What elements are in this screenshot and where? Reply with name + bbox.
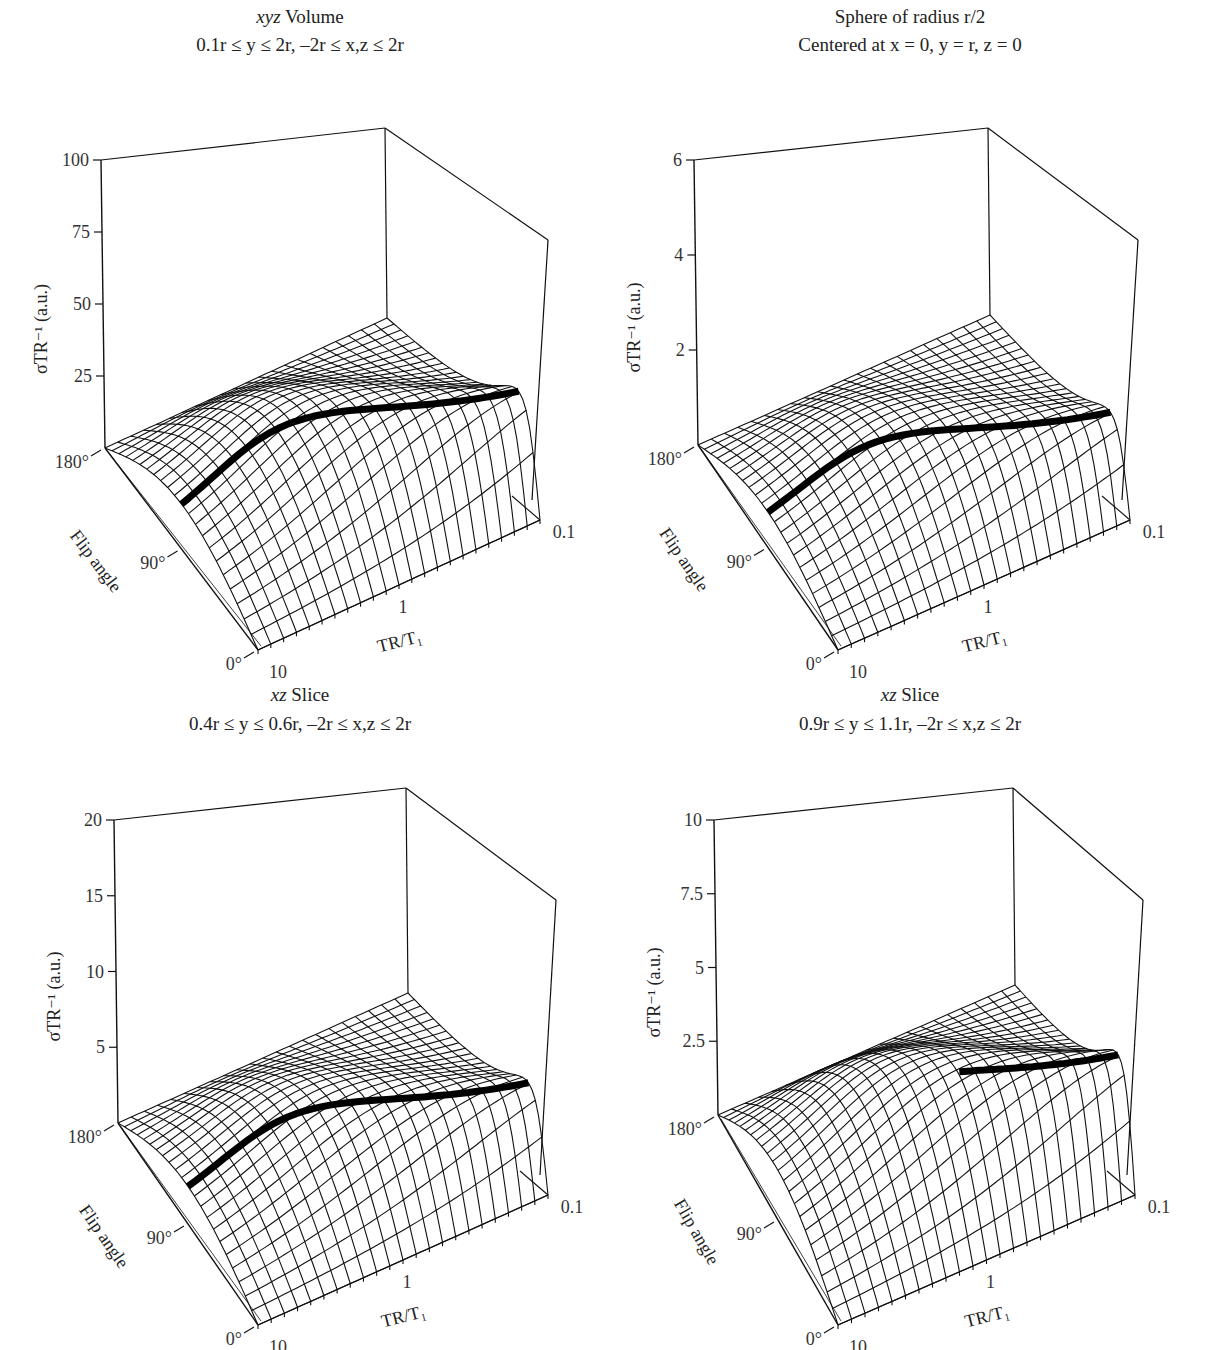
flip-tick-label: 90° — [140, 553, 165, 573]
surface-mesh — [118, 993, 548, 1329]
tr-tick-label: 0.1 — [1143, 522, 1166, 542]
surface-mesh — [698, 315, 1130, 654]
z-axis-label: σTR⁻¹ (a.u.) — [644, 947, 665, 1037]
z-tick-label: 15 — [85, 886, 103, 906]
flip-tick-label: 180° — [648, 449, 682, 469]
flip-tick-label: 180° — [668, 1119, 702, 1139]
surface-plot: 2015105σTR⁻¹ (a.u.)180°90°0°Flip angle10… — [0, 675, 600, 1350]
z-axis-label: σTR⁻¹ (a.u.) — [31, 284, 52, 374]
panel-xz-slice-low: xz Slice 0.4r ≤ y ≤ 0.6r, –2r ≤ x,z ≤ 2r… — [0, 675, 600, 1350]
z-tick-label: 100 — [62, 150, 89, 170]
surface-plot: 107.552.5σTR⁻¹ (a.u.)180°90°0°Flip angle… — [600, 675, 1200, 1350]
tr-axis-label: TR/T₁ — [960, 626, 1009, 656]
z-tick-label: 25 — [74, 366, 92, 386]
z-axis-label: σTR⁻¹ (a.u.) — [624, 282, 645, 372]
tr-tick-label: 1 — [986, 1272, 995, 1292]
flip-tick-label: 90° — [147, 1228, 172, 1248]
z-tick-label: 20 — [84, 810, 102, 830]
panel-xyz-volume: xyz Volume 0.1r ≤ y ≤ 2r, –2r ≤ x,z ≤ 2r… — [0, 0, 600, 675]
surface-mesh — [718, 985, 1135, 1329]
panel-sphere: Sphere of radius r/2 Centered at x = 0, … — [600, 0, 1200, 675]
tr-tick-label: 1 — [399, 597, 408, 617]
flip-tick-label: 90° — [727, 552, 752, 572]
flip-tick-label: 0° — [226, 1329, 242, 1349]
surface-plot: 642σTR⁻¹ (a.u.)180°90°0°Flip angle1010.1… — [600, 0, 1200, 675]
tr-tick-label: 0.1 — [561, 1197, 584, 1217]
tr-tick-label: 10 — [849, 1337, 867, 1350]
z-tick-label: 2 — [676, 340, 685, 360]
tr-tick-label: 1 — [984, 597, 993, 617]
flip-tick-label: 0° — [806, 1329, 822, 1349]
tr-tick-label: 1 — [403, 1272, 412, 1292]
panel-xz-slice-mid: xz Slice 0.9r ≤ y ≤ 1.1r, –2r ≤ x,z ≤ 2r… — [600, 675, 1200, 1350]
tr-axis-label: TR/T₁ — [379, 1301, 428, 1331]
z-axis-label: σTR⁻¹ (a.u.) — [44, 951, 65, 1041]
flip-axis-label: Flip angle — [66, 526, 126, 596]
z-tick-label: 5 — [96, 1037, 105, 1057]
surface-mesh — [105, 318, 540, 654]
tr-axis-label: TR/T₁ — [375, 626, 424, 656]
flip-axis-label: Flip angle — [670, 1195, 723, 1268]
z-tick-label: 7.5 — [681, 884, 704, 904]
flip-tick-label: 180° — [68, 1127, 102, 1147]
flip-tick-label: 180° — [55, 452, 89, 472]
z-tick-label: 6 — [673, 150, 682, 170]
z-tick-label: 75 — [72, 222, 90, 242]
surface-plot: 100755025σTR⁻¹ (a.u.)180°90°0°Flip angle… — [0, 0, 600, 675]
tr-axis-label: TR/T₁ — [963, 1301, 1012, 1331]
z-tick-label: 10 — [684, 810, 702, 830]
z-tick-label: 10 — [86, 962, 104, 982]
optimal-ridge-line — [768, 412, 1110, 512]
flip-axis-label: Flip angle — [655, 524, 712, 595]
tr-tick-label: 10 — [269, 1337, 287, 1350]
tr-tick-label: 0.1 — [1148, 1197, 1171, 1217]
tr-tick-label: 0.1 — [553, 522, 576, 542]
z-tick-label: 4 — [674, 245, 683, 265]
flip-tick-label: 90° — [737, 1224, 762, 1244]
flip-axis-label: Flip angle — [75, 1201, 133, 1272]
flip-tick-label: 0° — [806, 654, 822, 674]
flip-tick-label: 0° — [226, 654, 242, 674]
z-tick-label: 2.5 — [683, 1031, 706, 1051]
z-tick-label: 50 — [73, 294, 91, 314]
z-tick-label: 5 — [695, 958, 704, 978]
